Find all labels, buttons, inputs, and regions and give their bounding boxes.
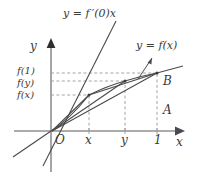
curve-label: y = f(x) [136, 40, 177, 51]
x-tick-label-one: 1 [154, 134, 162, 146]
chord-origin-to-fy [52, 81, 125, 131]
y-axis-label: y [30, 40, 37, 52]
chords-group [52, 73, 157, 131]
tangent-line [43, 21, 116, 166]
point-y-fy [124, 80, 127, 83]
y-tick-label-f1: f(1) [17, 66, 35, 76]
origin-label: O [55, 134, 65, 146]
tangent-line-label: y = f ′(0)x [63, 8, 116, 19]
point-x-fx [88, 94, 91, 97]
x-tick-label-y: y [121, 134, 128, 146]
point-one-f1 [156, 72, 159, 75]
x-tick-label-x: x [85, 134, 92, 146]
y-tick-label-fy: f(y) [17, 78, 34, 88]
y-tick-label-fx: f(x) [17, 90, 34, 100]
chord-origin-to-f1 [52, 73, 157, 131]
function-convexity-diagram: y = f ′(0)x y = f(x) y x O f(1) f(y) f(x… [0, 0, 197, 184]
y-axis-arrowhead [47, 38, 56, 48]
x-axis-label: x [176, 136, 183, 148]
point-label-b: B [163, 75, 172, 87]
point-label-a: A [163, 104, 172, 116]
